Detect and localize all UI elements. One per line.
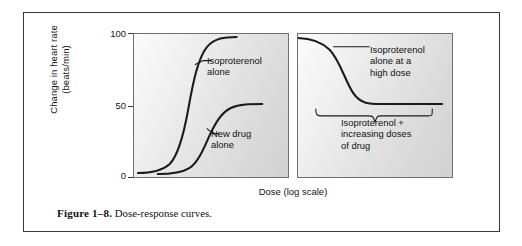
- y-axis-title: Change in heart rate (beats/min): [48, 8, 71, 132]
- figure-caption: Figure 1–8. Dose-response curves.: [57, 207, 212, 219]
- y-tick-label-50: 50: [98, 100, 126, 111]
- y-tick-label-0: 0: [98, 170, 126, 181]
- annotation-isoproterenol-high-dose: Isoproterenol alone at a high dose: [370, 44, 458, 78]
- y-tick-label-100: 100: [98, 28, 126, 39]
- y-tick-mark-0: [128, 177, 133, 178]
- y-axis-title-line2: (beats/min): [59, 8, 71, 132]
- y-tick-mark-50: [128, 106, 133, 107]
- annotation-isoproterenol-alone: Isoproterenol alone: [207, 55, 291, 78]
- y-axis-title-line1: Change in heart rate: [48, 25, 59, 114]
- y-tick-mark-100: [128, 33, 133, 34]
- annotation-isoproterenol-plus-drug: Isoproterenol + increasing doses of drug: [341, 117, 445, 151]
- figure-caption-number: Figure 1–8.: [57, 207, 112, 219]
- figure-caption-text: Dose-response curves.: [115, 207, 212, 219]
- annotation-new-drug-alone: New drug alone: [211, 128, 285, 151]
- figure-container: Change in heart rate (beats/min) 100 50 …: [0, 0, 522, 246]
- x-axis-title: Dose (log scale): [133, 186, 453, 197]
